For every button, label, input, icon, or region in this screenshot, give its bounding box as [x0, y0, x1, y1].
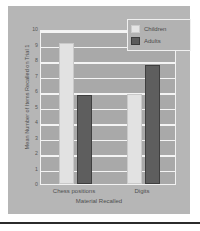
plot-area: [40, 30, 176, 185]
x-axis-tick-label: Digits: [134, 188, 149, 194]
children-swatch: [131, 25, 140, 33]
chart-figure: 012345678910 Mean Number of Items Recall…: [0, 0, 200, 231]
bottom-divider: [0, 222, 200, 224]
y-axis-label: Mean Number of Items Recalled on Trial 1: [24, 22, 30, 172]
chart-legend: ChildrenAdults: [127, 19, 191, 51]
x-axis-label: Material Recalled: [8, 198, 190, 204]
legend-label: Adults: [144, 38, 161, 44]
legend-item-children: Children: [131, 23, 187, 35]
bar-children-digits: [127, 94, 142, 184]
x-axis-tick-label: Chess positions: [53, 188, 95, 194]
bar-adults-digits: [145, 65, 160, 184]
figure-panel: 012345678910 Mean Number of Items Recall…: [8, 6, 190, 214]
legend-label: Children: [144, 26, 166, 32]
adults-swatch: [131, 37, 140, 45]
y-axis-tick-label: 0: [22, 182, 38, 187]
bar-children-chess-positions: [59, 43, 74, 184]
bar-adults-chess-positions: [77, 95, 92, 184]
legend-item-adults: Adults: [131, 35, 187, 47]
